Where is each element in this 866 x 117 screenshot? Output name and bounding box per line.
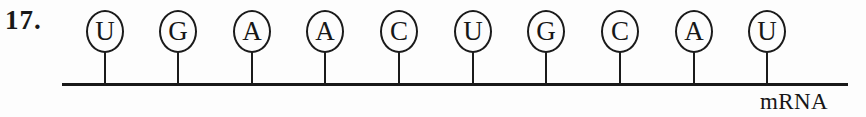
nucleotide-7: G bbox=[525, 10, 571, 88]
base-letter: U bbox=[748, 10, 786, 53]
base-letter: C bbox=[601, 10, 639, 53]
base-letter: A bbox=[233, 10, 271, 53]
base-stem-line bbox=[251, 52, 254, 86]
question-number: 17. bbox=[5, 7, 42, 34]
nucleotide-1: U bbox=[84, 10, 130, 88]
base-stem-line bbox=[693, 52, 696, 86]
nucleotide-6: U bbox=[452, 10, 498, 88]
base-letter: G bbox=[159, 10, 197, 53]
base-letter: A bbox=[675, 10, 713, 53]
nucleotide-10: U bbox=[746, 10, 792, 88]
base-stem-line bbox=[619, 52, 622, 86]
base-letter: U bbox=[86, 10, 124, 53]
base-stem-line bbox=[324, 52, 327, 86]
nucleotide-2: G bbox=[157, 10, 203, 88]
mrna-strand-label: mRNA bbox=[760, 90, 828, 113]
mrna-diagram: 17. mRNA UGAACUGCAU bbox=[0, 0, 866, 117]
nucleotide-4: A bbox=[304, 10, 350, 88]
nucleotide-3: A bbox=[231, 10, 277, 88]
base-stem-line bbox=[472, 52, 475, 86]
base-letter: U bbox=[454, 10, 492, 53]
nucleotide-8: C bbox=[599, 10, 645, 88]
base-stem-line bbox=[177, 52, 180, 86]
nucleotide-9: A bbox=[673, 10, 719, 88]
nucleotide-5: C bbox=[378, 10, 424, 88]
base-letter: A bbox=[306, 10, 344, 53]
base-letter: G bbox=[527, 10, 565, 53]
base-stem-line bbox=[398, 52, 401, 86]
base-stem-line bbox=[766, 52, 769, 86]
base-stem-line bbox=[104, 52, 107, 86]
base-stem-line bbox=[545, 52, 548, 86]
base-letter: C bbox=[380, 10, 418, 53]
